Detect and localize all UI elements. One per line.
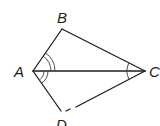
segment-bc xyxy=(62,29,145,71)
vertex-label-b: B xyxy=(57,9,67,26)
angle-mark-cad-inner xyxy=(39,71,44,80)
kite-diagram: A B C D xyxy=(0,0,160,126)
angle-mark-bac-inner xyxy=(43,56,51,71)
segment-cd-gap-part xyxy=(66,109,70,111)
segment-cd xyxy=(76,71,145,107)
vertex-label-c: C xyxy=(149,63,160,80)
vertex-label-a: A xyxy=(13,63,24,80)
angle-mark-bac-outer xyxy=(46,53,56,71)
vertex-label-d: D xyxy=(56,116,67,126)
segment-ab xyxy=(33,29,62,71)
